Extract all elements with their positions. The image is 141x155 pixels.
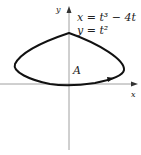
equation-x: x = t³ − 4t: [77, 11, 136, 24]
y-axis-label: y: [55, 5, 61, 14]
region-label: A: [72, 64, 81, 77]
y-axis-arrow-icon: [67, 6, 72, 13]
axes: [0, 6, 138, 150]
parametric-curve-diagram: y x x = t³ − 4t y = t² A: [0, 0, 141, 155]
equation-y: y = t²: [76, 24, 108, 37]
x-axis-label: x: [131, 90, 136, 99]
x-axis-arrow-icon: [131, 82, 138, 87]
